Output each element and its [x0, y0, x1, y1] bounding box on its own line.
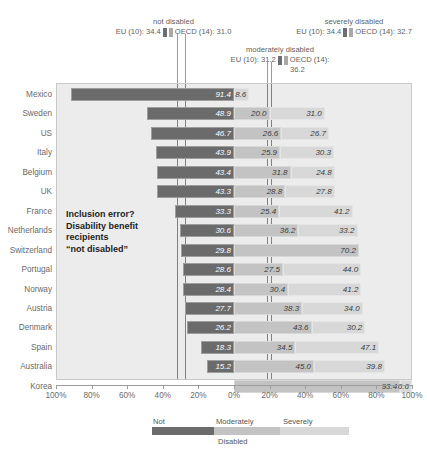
segment-moderately-disabled: 31.8	[234, 166, 291, 179]
bar-row: 91.48.6	[71, 88, 249, 101]
category-label: Mexico	[0, 89, 52, 100]
annotation-severely-disabled-title: severely disabled	[274, 17, 427, 27]
segment-moderately-disabled: 27.5	[234, 263, 283, 276]
segment-value: 26.7	[310, 127, 326, 140]
segment-moderately-disabled: 26.6	[234, 127, 281, 140]
segment-value: 29.8	[215, 244, 231, 257]
legend-label-severely: Severely	[283, 417, 313, 426]
legend-swatch-not	[152, 427, 214, 435]
axis-tick-label: 0%	[214, 391, 254, 400]
inclusion-error-note: Inclusion error? Disability benefit reci…	[66, 209, 176, 255]
category-label: Belgium	[0, 167, 52, 178]
segment-value: 30.6	[215, 224, 231, 237]
segment-value: 43.9	[215, 146, 231, 159]
category-label: Norway	[0, 284, 52, 295]
axis-tick-label: 20%	[178, 391, 218, 400]
legend-label-not: Not	[153, 417, 165, 426]
segment-value: 30.2	[347, 321, 363, 334]
segment-value: 41.2	[343, 283, 359, 296]
segment-value: 30.4	[270, 283, 286, 296]
category-label: Portugal	[0, 264, 52, 275]
oecd-swatch-icon	[349, 28, 353, 37]
axis-tick	[163, 385, 164, 389]
note-line-4: “not disabled”	[66, 244, 176, 256]
segment-value: 26.6	[263, 127, 279, 140]
segment-value: 25.9	[262, 146, 278, 159]
category-label: Sweden	[0, 108, 52, 119]
segment-value: 31.8	[272, 166, 288, 179]
category-label: Australia	[0, 361, 52, 372]
axis-tick	[376, 385, 377, 389]
segment-not-disabled: 26.2	[187, 321, 234, 334]
segment-value: 39.8	[366, 360, 382, 373]
segment-value: 25.4	[261, 205, 277, 218]
segment-value: 26.2	[215, 321, 231, 334]
legend-label-moderately: Moderately	[216, 417, 254, 426]
segment-value: 43.4	[215, 166, 231, 179]
category-label: UK	[0, 186, 52, 197]
bar-row: 15.245.039.8	[207, 360, 385, 373]
bar-row: 26.243.630.2	[187, 321, 365, 334]
bar-row: 28.627.544.0	[183, 263, 361, 276]
segment-severely-disabled: 33.2	[298, 224, 357, 237]
axis-tick-label: 100%	[392, 391, 427, 400]
axis-tick	[127, 385, 128, 389]
segment-value: 44.0	[343, 263, 359, 276]
guide-line-not-eu	[177, 34, 178, 83]
annotation-moderately-disabled-eu-label: EU (10): 31.2	[231, 55, 276, 65]
segment-not-disabled: 46.7	[151, 127, 234, 140]
guide-line-mod-eu	[267, 62, 268, 83]
segment-moderately-disabled: 36.2	[234, 224, 298, 237]
bar-row: 48.920.031.0	[147, 107, 325, 120]
chart-root: not disabled EU (10): 34.4 OECD (14): 31…	[0, 0, 427, 451]
segment-severely-disabled: 44.0	[283, 263, 361, 276]
legend-caption: Disabled	[218, 437, 248, 446]
segment-not-disabled: 28.6	[183, 263, 234, 276]
segment-value: 47.1	[361, 341, 377, 354]
bar-row: 27.738.334.0	[185, 302, 363, 315]
legend-swatch-moderately	[214, 427, 280, 435]
segment-value: 43.3	[215, 185, 231, 198]
segment-severely-disabled: 31.0	[270, 107, 325, 120]
segment-not-disabled: 29.8	[181, 244, 234, 257]
axis-tick	[198, 385, 199, 389]
segment-severely-disabled: 39.8	[314, 360, 385, 373]
guide-line-mod-oecd	[271, 62, 272, 83]
segment-value: 38.3	[284, 302, 300, 315]
segment-value: 33.2	[339, 224, 355, 237]
segment-not-disabled: 15.2	[207, 360, 234, 373]
axis-tick	[56, 385, 57, 389]
legend-swatch-severely	[280, 427, 349, 435]
note-line-3: recipients	[66, 232, 176, 244]
segment-value: 70.2	[340, 244, 356, 257]
annotation-not-disabled-eu-label: EU (10): 34.4	[116, 27, 161, 37]
bar-row: 18.334.547.1	[201, 341, 379, 354]
bar-row: 43.431.824.8	[157, 166, 335, 179]
segment-value: 8.6	[235, 88, 246, 101]
segment-value: 15.2	[215, 360, 231, 373]
segment-severely-disabled: 30.3	[280, 146, 334, 159]
bar-row: 28.430.441.2	[183, 283, 361, 296]
segment-severely-disabled: 41.2	[288, 283, 361, 296]
note-line-2: Disability benefit	[66, 221, 176, 233]
guide-line-not-oecd	[185, 34, 186, 83]
segment-not-disabled: 91.4	[71, 88, 234, 101]
segment-value: 24.8	[316, 166, 332, 179]
segment-value: 43.6	[293, 321, 309, 334]
segment-not-disabled: 48.9	[147, 107, 234, 120]
segment-severely-disabled: 24.8	[291, 166, 335, 179]
eu-swatch-icon	[163, 28, 167, 37]
segment-moderately-disabled: 38.3	[234, 302, 302, 315]
eu-swatch-icon	[278, 56, 282, 65]
segment-value: 20.0	[251, 107, 267, 120]
segment-value: 30.3	[315, 146, 331, 159]
axis-tick-label: 60%	[321, 391, 361, 400]
segment-value: 28.6	[215, 263, 231, 276]
axis-tick	[341, 385, 342, 389]
segment-moderately-disabled: 45.0	[234, 360, 314, 373]
segment-not-disabled: 28.4	[183, 283, 234, 296]
axis-tick-label: 80%	[72, 391, 112, 400]
axis-tick	[270, 385, 271, 389]
category-label: US	[0, 128, 52, 139]
segment-not-disabled: 43.9	[156, 146, 234, 159]
